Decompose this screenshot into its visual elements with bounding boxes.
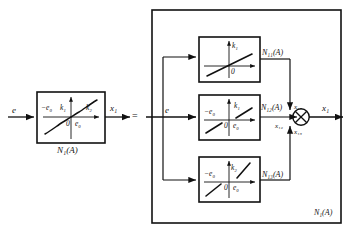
left-graph-right-breakpoint-label: e₀	[75, 120, 81, 128]
left-output-label: x₁	[110, 104, 117, 113]
bottom-block-label: N₁₃(A)	[262, 171, 283, 179]
bottom-block-characteristic-deadzone	[206, 163, 250, 196]
middle-block-right-breakpoint-label: e₀	[233, 122, 239, 130]
figure-canvas: e −e₀ k₁ k₂ 0 e₀ x₁ N₁(A) = e k₁ 0 N₁₁(A…	[0, 0, 349, 233]
middle-block-left-breakpoint-label: −e₀	[204, 108, 215, 116]
top-block-label: N₁₁(A)	[262, 49, 283, 57]
bottom-block-slope-label: k₂	[231, 164, 237, 172]
left-graph-left-breakpoint-label: −e₀	[41, 104, 52, 112]
left-block-caption: N₁(A)	[57, 146, 78, 155]
left-graph-outer-slope-label: k₂	[86, 104, 92, 112]
right-output-label: x₁	[322, 104, 329, 113]
bottom-block-right-breakpoint-label: e₀	[233, 184, 239, 192]
right-input-label: e	[165, 106, 169, 115]
signal-label-x12: x₁₂	[275, 123, 283, 130]
middle-block-label: N₁₂(A)	[261, 104, 282, 112]
top-block-slope-label: k₁	[232, 42, 238, 50]
outer-block-label: N₁(A)	[314, 209, 332, 217]
left-graph-origin-label: 0	[66, 120, 70, 128]
bottom-block-origin-label: 0	[224, 184, 228, 192]
top-block-origin-label: 0	[231, 68, 235, 76]
middle-block-rect	[199, 95, 260, 140]
middle-block-slope-label: k₁	[234, 102, 240, 110]
equals-sign: =	[132, 111, 138, 121]
signal-label-x11: x₁₁	[294, 104, 302, 111]
top-block-graph-axes	[204, 41, 255, 78]
signal-label-x13: x₁₃	[294, 129, 302, 136]
top-block-characteristic-line	[207, 54, 252, 76]
input-distribution-bus	[163, 57, 196, 180]
left-input-label: e	[12, 106, 16, 115]
left-graph-inner-slope-label: k₁	[60, 104, 66, 112]
diagram-vector-layer	[0, 0, 349, 233]
middle-block-origin-label: 0	[224, 122, 228, 130]
middle-block-graph-axes	[204, 99, 255, 136]
bottom-block-left-breakpoint-label: −e₀	[204, 170, 215, 178]
